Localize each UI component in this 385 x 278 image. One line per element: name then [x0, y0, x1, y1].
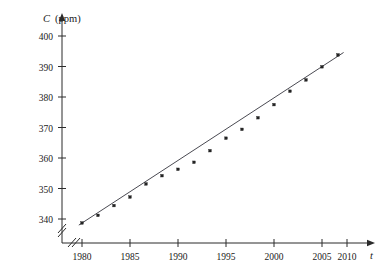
x-tick-label: 2005 [313, 252, 332, 262]
x-tick-label: 1985 [121, 252, 140, 262]
x-tick-label: 1995 [217, 252, 236, 262]
y-axis-label: C [43, 13, 51, 24]
y-tick-label: 390 [39, 63, 54, 73]
data-point [273, 103, 276, 106]
y-axis-unit: (ppm) [55, 13, 81, 25]
data-point [81, 222, 84, 225]
x-tick-label: 2010 [338, 252, 357, 262]
data-point [225, 137, 228, 140]
x-tick-label: 1990 [169, 252, 188, 262]
co2-scatter-chart: C (ppm) t 400 390 380 37 [0, 0, 385, 278]
y-tick-label: 340 [39, 215, 54, 225]
data-point [129, 196, 132, 199]
data-point [289, 90, 292, 93]
data-point [257, 116, 260, 119]
y-tick-label: 350 [39, 185, 54, 195]
x-axis-arrow-icon [367, 240, 375, 246]
y-tick-label: 360 [39, 154, 54, 164]
x-tick-label: 2000 [265, 252, 284, 262]
data-point [321, 66, 324, 69]
data-point [145, 183, 148, 186]
data-point [241, 128, 244, 131]
y-tick-label: 380 [39, 93, 54, 103]
plot-canvas: C (ppm) t 400 390 380 37 [0, 0, 385, 278]
data-point [193, 161, 196, 164]
data-point [113, 204, 116, 207]
data-point [177, 168, 180, 171]
x-axis-label: t [370, 250, 374, 261]
x-tick-label: 1980 [73, 252, 92, 262]
data-point [161, 174, 164, 177]
y-tick-label: 400 [39, 32, 54, 42]
regression-line [79, 52, 344, 225]
data-point [209, 149, 212, 152]
data-point [337, 54, 340, 57]
y-tick-label: 370 [39, 124, 54, 134]
data-point [97, 214, 100, 217]
data-point [305, 79, 308, 82]
x-axis-ticks: 1980 1985 1990 1995 2000 2005 2010 [73, 239, 357, 262]
